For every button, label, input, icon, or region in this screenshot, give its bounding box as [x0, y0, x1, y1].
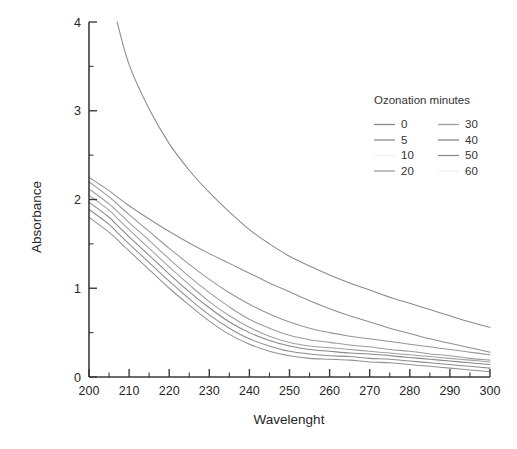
x-tick-label: 270 — [359, 384, 380, 398]
x-tick-label: 280 — [399, 384, 420, 398]
series-line-50 — [89, 209, 490, 368]
x-axis-title: Wavelenght — [254, 412, 325, 427]
legend-item-60[interactable]: 60 — [438, 165, 478, 177]
series-line-30 — [89, 195, 490, 362]
x-tick-label: 300 — [480, 384, 501, 398]
series-line-10 — [89, 182, 490, 355]
legend-label-40: 40 — [465, 134, 478, 146]
x-tick-label: 200 — [79, 384, 100, 398]
curves-layer — [89, 22, 490, 372]
legend-label-20: 20 — [401, 165, 414, 177]
legend-label-30: 30 — [465, 118, 478, 130]
legend-label-60: 60 — [465, 165, 478, 177]
x-tick-label: 260 — [319, 384, 340, 398]
y-tick-label: 2 — [74, 193, 81, 207]
series-line-0 — [117, 22, 490, 327]
chart-canvas: 20021022023024025026027028029030001234 O… — [0, 0, 517, 449]
legend-item-20[interactable]: 20 — [374, 165, 414, 177]
legend-label-5: 5 — [401, 134, 407, 146]
legend-title: Ozonation minutes — [374, 94, 470, 106]
legend: Ozonation minutes05102030405060 — [374, 94, 478, 177]
series-line-5 — [89, 177, 490, 352]
legend-label-10: 10 — [401, 149, 414, 161]
y-tick-label: 0 — [74, 371, 81, 385]
legend-item-50[interactable]: 50 — [438, 149, 478, 161]
legend-item-0[interactable]: 0 — [374, 118, 407, 130]
legend-item-30[interactable]: 30 — [438, 118, 478, 130]
axes-layer — [89, 22, 490, 377]
x-tick-label: 220 — [159, 384, 180, 398]
y-tick-label: 3 — [74, 104, 81, 118]
y-tick-label: 1 — [74, 282, 81, 296]
legend-label-50: 50 — [465, 149, 478, 161]
x-tick-label: 290 — [439, 384, 460, 398]
x-tick-label: 250 — [279, 384, 300, 398]
legend-item-10[interactable]: 10 — [374, 149, 414, 161]
absorbance-spectra-figure: 20021022023024025026027028029030001234 O… — [0, 0, 517, 449]
x-tick-label: 240 — [239, 384, 260, 398]
legend-item-5[interactable]: 5 — [374, 134, 407, 146]
series-line-20 — [89, 189, 490, 360]
y-axis-title: Absorbance — [29, 181, 44, 253]
x-tick-label: 230 — [199, 384, 220, 398]
x-tick-label: 210 — [119, 384, 140, 398]
series-line-40 — [89, 202, 490, 364]
legend-label-0: 0 — [401, 118, 407, 130]
legend-item-40[interactable]: 40 — [438, 134, 478, 146]
y-tick-label: 4 — [74, 16, 81, 30]
